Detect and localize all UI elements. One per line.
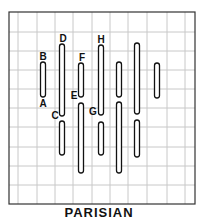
stitch: [79, 103, 84, 173]
stitch-label-d: D: [59, 33, 66, 44]
stitch-label-e: E: [71, 90, 78, 101]
parisian-stitch-diagram: BADCFEHG: [0, 0, 198, 217]
stitch: [99, 45, 104, 115]
stitch: [155, 63, 160, 98]
stitch: [99, 122, 104, 155]
stitch-label-a: A: [39, 98, 46, 109]
stitch-label-c: C: [51, 110, 58, 121]
stitch-label-g: G: [89, 106, 97, 117]
stitch: [60, 121, 65, 155]
stitch-label-h: H: [97, 34, 104, 45]
diagram-title: PARISIAN: [0, 205, 198, 217]
stitch: [79, 63, 84, 97]
stitch: [60, 44, 65, 116]
stitch-label-b: B: [39, 51, 46, 62]
stitch: [117, 102, 122, 173]
stitch: [135, 120, 140, 157]
stitch: [117, 62, 122, 97]
stitch: [41, 62, 46, 97]
stitch: [135, 43, 140, 114]
stitch-label-f: F: [79, 52, 85, 63]
